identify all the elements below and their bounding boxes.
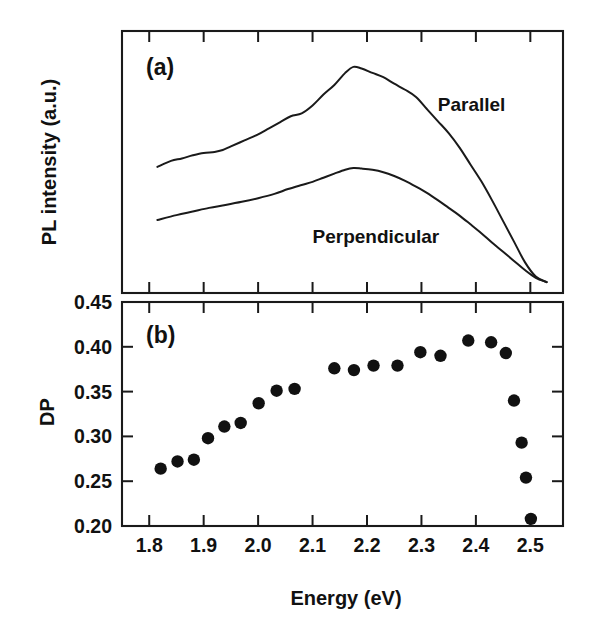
y-tick-label: 0.35 — [74, 381, 112, 403]
panel-a-tick-marks — [149, 31, 530, 293]
panel-a-label: (a) — [146, 54, 174, 80]
panel-b: 1.81.92.02.12.22.32.42.5 0.200.250.300.3… — [36, 291, 563, 609]
data-point — [500, 347, 512, 359]
panel-b-axes-frame — [122, 302, 563, 526]
x-tick-label: 2.5 — [517, 534, 544, 556]
figure-container: (a) Parallel Perpendicular PL intensity … — [0, 0, 592, 634]
panel-a: (a) Parallel Perpendicular PL intensity … — [38, 31, 563, 293]
y-tick-label: 0.40 — [74, 336, 112, 358]
x-tick-label: 1.9 — [190, 534, 217, 556]
y-tick-label: 0.25 — [74, 470, 112, 492]
y-tick-label: 0.30 — [74, 425, 112, 447]
data-point — [202, 432, 214, 444]
data-point — [485, 336, 497, 348]
panel-b-x-tick-labels: 1.81.92.02.12.22.32.42.5 — [136, 534, 544, 556]
data-point — [328, 362, 340, 374]
x-tick-label: 2.2 — [353, 534, 380, 556]
data-point — [288, 383, 300, 395]
panel-b-y-tick-labels: 0.200.250.300.350.400.45 — [74, 291, 112, 537]
data-point — [434, 350, 446, 362]
y-tick-label: 0.20 — [74, 515, 112, 537]
series-label-parallel: Parallel — [438, 94, 506, 115]
data-point — [171, 455, 183, 467]
x-tick-label: 2.4 — [462, 534, 489, 556]
data-point — [188, 454, 200, 466]
data-point — [462, 334, 474, 346]
panel-a-y-axis-title: PL intensity (a.u.) — [38, 79, 60, 245]
x-tick-label: 2.3 — [408, 534, 435, 556]
data-point — [154, 462, 166, 474]
data-point — [515, 436, 527, 448]
figure-svg: (a) Parallel Perpendicular PL intensity … — [0, 0, 592, 634]
data-point — [252, 397, 264, 409]
data-point — [348, 364, 360, 376]
x-tick-label: 2.0 — [245, 534, 272, 556]
data-point — [520, 471, 532, 483]
series-label-perpendicular: Perpendicular — [313, 226, 440, 247]
data-point — [508, 394, 520, 406]
panel-b-data-points — [154, 334, 537, 525]
data-point — [525, 513, 537, 525]
data-point — [367, 359, 379, 371]
x-tick-label: 1.8 — [136, 534, 163, 556]
panel-a-axes-frame — [122, 31, 563, 293]
data-point — [414, 346, 426, 358]
panel-b-tick-marks — [122, 302, 563, 526]
y-tick-label: 0.45 — [74, 291, 112, 313]
data-point — [270, 385, 282, 397]
data-point — [391, 359, 403, 371]
x-tick-label: 2.1 — [299, 534, 326, 556]
panel-b-y-axis-title: DP — [36, 398, 58, 426]
panel-b-label: (b) — [146, 322, 175, 348]
data-point — [218, 420, 230, 432]
data-point — [234, 417, 246, 429]
panel-b-x-axis-title: Energy (eV) — [290, 587, 401, 609]
